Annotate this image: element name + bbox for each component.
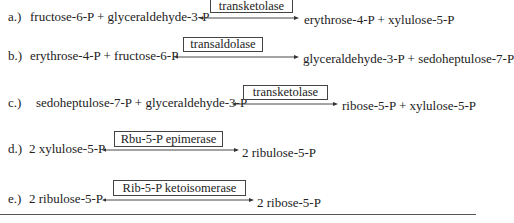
reaction-label: e.) bbox=[8, 192, 21, 206]
reversible-arrow-icon bbox=[102, 196, 254, 204]
products: 2 ribose-5-P bbox=[257, 196, 321, 210]
substrates: erythrose-4-P + fructose-6-P bbox=[30, 49, 178, 63]
enzyme-box: Rbu-5-P epimerase bbox=[114, 131, 223, 147]
reversible-arrow-icon bbox=[174, 53, 299, 61]
bottom-rule bbox=[0, 214, 476, 215]
reaction-d: d.) 2 xylulose-5-P Rbu-5-P epimerase 2 r… bbox=[0, 133, 487, 173]
reaction-label: d.) bbox=[8, 142, 22, 156]
enzyme-box: transketolase bbox=[210, 0, 293, 13]
enzyme-box: Rib-5-P ketoisomerase bbox=[113, 180, 246, 196]
enzyme-box: transaldolase bbox=[183, 37, 263, 52]
reversible-arrow-icon bbox=[199, 14, 299, 22]
products: erythrose-4-P + xylulose-5-P bbox=[304, 13, 455, 27]
reaction-label: c.) bbox=[8, 96, 21, 110]
reaction-label: b.) bbox=[8, 49, 22, 63]
products: glyceraldehyde-3-P + sedoheptulose-7-P bbox=[303, 52, 514, 66]
reaction-label: a.) bbox=[8, 10, 21, 24]
reversible-arrow-icon bbox=[232, 100, 338, 108]
reaction-c: c.) sedoheptulose-7-P + glyceraldehyde-3… bbox=[0, 88, 487, 128]
reaction-a: a.) fructose-6-P + glyceraldehyde-3-P tr… bbox=[0, 0, 487, 40]
products: 2 ribulose-5-P bbox=[242, 146, 316, 160]
enzyme-box: transketolase bbox=[243, 85, 328, 100]
substrates: sedoheptulose-7-P + glyceraldehyde-3-P bbox=[36, 96, 247, 110]
substrates: fructose-6-P + glyceraldehyde-3-P bbox=[30, 10, 209, 24]
reaction-e: e.) 2 ribulose-5-P Rib-5-P ketoisomerase… bbox=[0, 183, 487, 223]
substrates: 2 xylulose-5-P bbox=[29, 142, 105, 156]
products: ribose-5-P + xylulose-5-P bbox=[342, 99, 476, 113]
reaction-b: b.) erythrose-4-P + fructose-6-P transal… bbox=[0, 40, 487, 80]
reversible-arrow-icon bbox=[102, 146, 239, 154]
substrates: 2 ribulose-5-P bbox=[29, 192, 103, 206]
